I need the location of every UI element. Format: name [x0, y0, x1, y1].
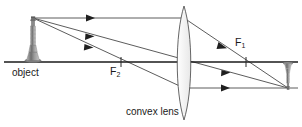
focal-point-f2-subscript: 2	[116, 71, 120, 78]
focal-point-f1-subscript: 1	[241, 42, 245, 49]
convex-lens-ray-diagram: object convex lens F1 F2	[0, 0, 302, 127]
focal-point-f1-label: F1	[235, 37, 245, 48]
arrowhead-parallel-exit	[221, 85, 230, 92]
convex-lens-label: convex lens	[126, 107, 179, 117]
focal-point-f2-label: F2	[110, 66, 120, 77]
convex-lens-shape	[177, 6, 191, 120]
object-label: object	[12, 68, 39, 78]
object-figure	[25, 16, 42, 62]
arrowhead-parallel-incident	[86, 15, 95, 22]
